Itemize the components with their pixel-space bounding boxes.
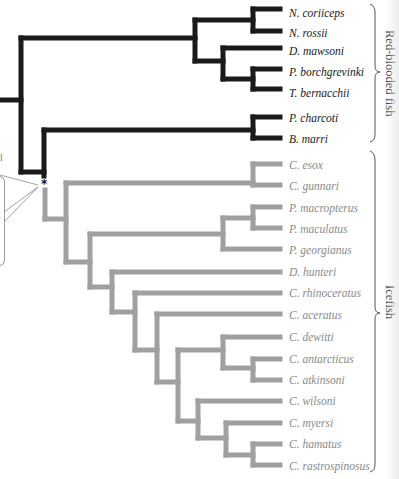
taxon-label: C. dewitti bbox=[289, 330, 334, 344]
callout-pointer bbox=[0, 175, 38, 222]
taxon-label: D. hunteri bbox=[289, 265, 336, 279]
icefish-branches bbox=[45, 164, 280, 465]
red-blooded-branches bbox=[0, 9, 280, 176]
taxon-label: P. georgianus bbox=[289, 243, 352, 257]
node-marker-asterisk: * bbox=[41, 177, 47, 191]
taxon-label: C. antarcticus bbox=[289, 352, 354, 366]
clade-brackets bbox=[370, 4, 380, 472]
taxon-label: P. charcoti bbox=[289, 111, 338, 125]
taxon-label: T. bernacchii bbox=[289, 86, 349, 100]
taxon-label: C. wilsoni bbox=[289, 394, 336, 408]
taxon-label: D. mawsoni bbox=[289, 44, 344, 58]
taxon-label: C. rhinoceratus bbox=[289, 286, 361, 300]
partial-callout-text: l bbox=[0, 152, 3, 163]
taxon-label: C. aceratus bbox=[289, 308, 342, 322]
taxon-label: C. hamatus bbox=[289, 437, 341, 451]
red-blooded-bracket bbox=[370, 4, 380, 142]
callout-box bbox=[0, 176, 5, 266]
taxon-label: B. marri bbox=[289, 132, 328, 146]
taxon-label: C. atkinsoni bbox=[289, 373, 345, 387]
taxon-label: P. macropterus bbox=[289, 201, 358, 215]
taxon-label: C. esox bbox=[289, 158, 323, 172]
page-edge-shadow bbox=[385, 0, 399, 479]
icefish-bracket bbox=[370, 151, 380, 472]
taxon-label: C. gunnari bbox=[289, 179, 339, 193]
taxon-label: P. borchgrevinki bbox=[289, 65, 364, 79]
taxon-label: N. coriiceps bbox=[289, 6, 345, 20]
taxon-label: P. maculatus bbox=[289, 222, 348, 236]
taxon-label: C. rastrospinosus bbox=[289, 459, 370, 473]
taxon-label: N. rossii bbox=[289, 26, 328, 40]
taxon-label: C. myersi bbox=[289, 416, 333, 430]
